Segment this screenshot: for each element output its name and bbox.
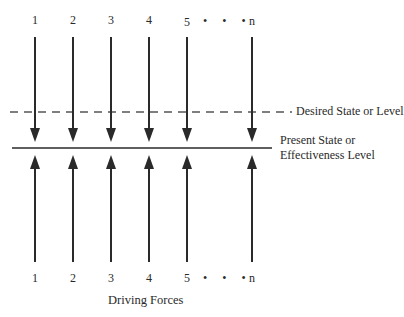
restraining-arrows — [30, 37, 257, 142]
bottom-label-1: 1 — [32, 271, 38, 286]
top-label-5: 5 — [184, 15, 190, 30]
top-ellipsis: • • • — [203, 14, 252, 29]
present-state-label-line2: Effectiveness Level — [280, 148, 375, 162]
bottom-label-n: n — [249, 271, 255, 286]
bottom-label-5: 5 — [184, 271, 190, 286]
bottom-label-3: 3 — [108, 271, 114, 286]
top-label-2: 2 — [70, 13, 76, 28]
bottom-label-2: 2 — [70, 271, 76, 286]
driving-forces-caption: Driving Forces — [108, 293, 183, 307]
top-label-3: 3 — [108, 13, 114, 28]
present-state-label-line1: Present State or — [280, 133, 355, 147]
top-label-1: 1 — [32, 13, 38, 28]
top-label-4: 4 — [146, 13, 152, 28]
desired-state-label: Desired State or Level — [296, 104, 404, 118]
bottom-ellipsis: • • • — [203, 271, 252, 286]
bottom-label-4: 4 — [146, 271, 152, 286]
top-label-n: n — [249, 14, 255, 29]
driving-arrows — [30, 155, 257, 262]
